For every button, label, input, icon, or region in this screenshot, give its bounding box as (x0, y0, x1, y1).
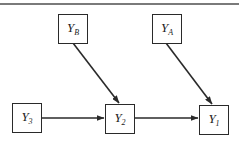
node-y-3-label: Y3 (21, 110, 32, 126)
node-y-b-label: YB (67, 21, 79, 37)
node-y-3: Y3 (12, 103, 42, 133)
edge-yb-to-y2 (73, 43, 119, 103)
node-y-2-label: Y2 (114, 111, 125, 127)
edge-ya-to-y1 (166, 43, 212, 104)
node-y-a-label: YA (161, 21, 173, 37)
node-y-1: Y1 (199, 105, 229, 135)
node-y-a: YA (152, 14, 182, 44)
node-y-2: Y2 (105, 104, 135, 134)
node-y-b: YB (58, 14, 88, 44)
node-y-1-label: Y1 (208, 112, 219, 128)
